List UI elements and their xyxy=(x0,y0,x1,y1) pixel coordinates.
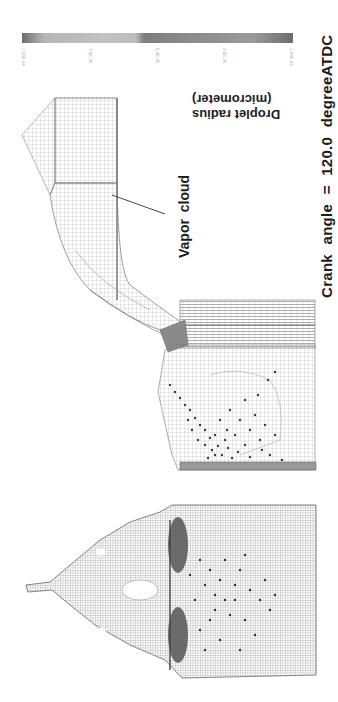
cylinder-head-view xyxy=(26,505,316,678)
cylinder-spray xyxy=(158,345,316,470)
intake-port-mesh xyxy=(22,98,185,340)
cfd-mesh-illustration xyxy=(0,0,338,702)
cylinder-valve-region xyxy=(160,300,315,352)
